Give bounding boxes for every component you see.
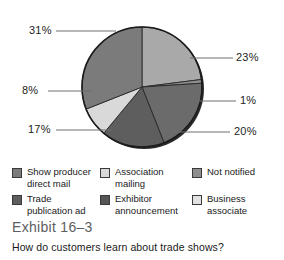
pie-chart-figure: 31% 23% 8% 1% 17% 20% [0, 0, 284, 163]
legend-swatch-icon [192, 195, 202, 205]
legend-swatch-icon [12, 168, 22, 178]
legend-item-show-producer-direct-mail[interactable]: Show producer direct mail [12, 166, 100, 189]
exhibit-question: How do customers learn about trade shows… [12, 241, 224, 253]
legend-item-label: Trade publication ad [27, 193, 99, 216]
pie-slice[interactable] [142, 27, 202, 87]
legend-item-association-mailing[interactable]: Association mailing [100, 166, 192, 189]
pie-label-20: 20% [234, 125, 257, 137]
legend-item-trade-publication-ad[interactable]: Trade publication ad [12, 193, 100, 216]
pie-label-23: 23% [236, 51, 259, 63]
legend-item-not-notified[interactable]: Not notified [192, 166, 278, 189]
pie-label-17: 17% [28, 123, 51, 135]
legend-item-exhibitor-announcement[interactable]: Exhibitor announcement [100, 193, 192, 216]
legend-swatch-icon [12, 195, 22, 205]
legend-swatch-icon [192, 168, 202, 178]
legend-item-label: Exhibitor announcement [115, 193, 187, 216]
legend-swatch-icon [100, 195, 110, 205]
legend-item-label: Association mailing [115, 166, 187, 189]
legend-item-label: Business associate [207, 193, 278, 216]
legend-item-label: Not notified [207, 166, 255, 178]
pie-label-1: 1% [240, 94, 256, 106]
pie-label-8: 8% [22, 84, 38, 96]
legend-item-label: Show producer direct mail [27, 166, 99, 189]
legend-swatch-icon [100, 168, 110, 178]
exhibit-title: Exhibit 16–3 [12, 219, 93, 235]
pie-label-31: 31% [29, 24, 52, 36]
legend-item-business-associate[interactable]: Business associate [192, 193, 278, 216]
chart-legend: Show producer direct mail Association ma… [12, 166, 278, 216]
